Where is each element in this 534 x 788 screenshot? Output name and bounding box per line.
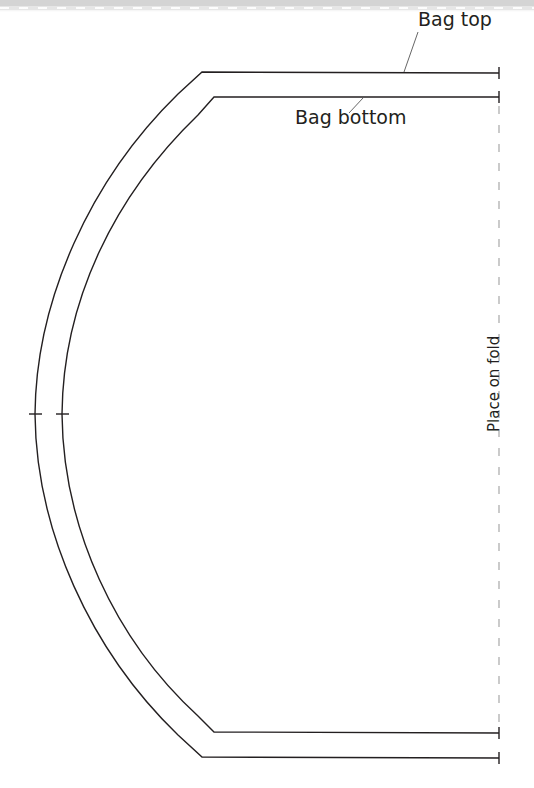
- bag-top-label: Bag top: [418, 10, 492, 29]
- leader-bag-top: [404, 32, 418, 72]
- pattern-drawing: [0, 0, 534, 788]
- bag-bottom-outline: [62, 97, 499, 733]
- bag-top-outline: [35, 72, 499, 758]
- place-on-fold-label: Place on fold: [487, 336, 502, 432]
- bag-bottom-label: Bag bottom: [295, 108, 407, 127]
